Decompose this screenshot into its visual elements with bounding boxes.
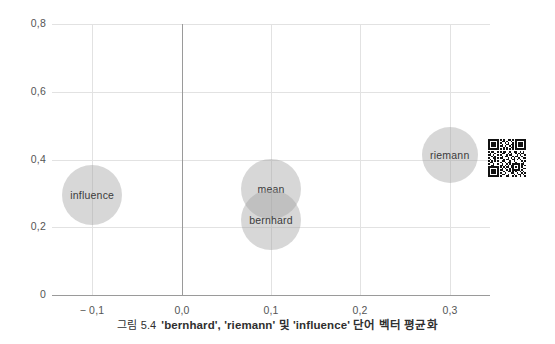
- y-tick-label-3: 0,6: [12, 85, 46, 97]
- bubble-label-riemann: riemann: [430, 149, 469, 161]
- gridline-x-3: [360, 24, 361, 295]
- bubble-label-influence: influence: [70, 189, 114, 201]
- caption-number: 그림 5.4: [117, 319, 156, 331]
- caption-text: 'bernhard', 'riemann' 및 'influence' 단어 벡…: [161, 319, 437, 331]
- x-tick-label-3: 0,2: [337, 304, 383, 316]
- bubble-influence[interactable]: influence: [62, 165, 122, 225]
- x-tick-label-2: 0,1: [248, 304, 294, 316]
- y-tick-label-4: 0,8: [12, 17, 46, 29]
- x-tick-label-1: 0,0: [159, 304, 205, 316]
- bubble-riemann[interactable]: riemann: [422, 127, 478, 183]
- y-axis-line: [182, 24, 183, 295]
- x-tick-label-0: − 0,1: [69, 304, 115, 316]
- gridline-x-0: [92, 24, 93, 295]
- bubble-bernhard[interactable]: bernhard: [241, 190, 301, 250]
- x-axis-line: [52, 295, 490, 296]
- qr-code-icon: [488, 139, 526, 177]
- x-tick-label-4: 0,3: [427, 304, 473, 316]
- figure-caption: 그림 5.4'bernhard', 'riemann' 및 'influence…: [0, 316, 555, 332]
- y-tick-label-1: 0,2: [12, 220, 46, 232]
- y-tick-label-2: 0,4: [12, 153, 46, 165]
- y-tick-label-0: 0: [12, 288, 46, 300]
- scatter-plot-area: 00,20,40,60,8− 0,10,00,10,20,3influencem…: [0, 0, 555, 310]
- bubble-label-bernhard: bernhard: [249, 214, 293, 226]
- figure-root: 00,20,40,60,8− 0,10,00,10,20,3influencem…: [0, 0, 555, 344]
